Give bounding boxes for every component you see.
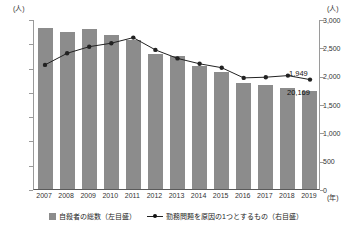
chart-container: (人) (人) 05,00010,00015,00020,00025,00030…	[0, 0, 352, 229]
line-marker-2019	[308, 77, 312, 81]
right-axis-tick-500: 500	[323, 158, 335, 165]
right-axis-tick-1500: 1,500	[323, 102, 341, 109]
x-axis-tick-2008: 2008	[55, 192, 77, 200]
x-axis-tick-2011: 2011	[121, 192, 143, 200]
chart-legend: 自殺者の総数（左目盛） 勤務問題を原因の1つとするもの（右目盛）	[0, 211, 352, 221]
right-axis-tick-2500: 2,500	[323, 45, 341, 52]
line-marker-2008	[65, 51, 69, 55]
line-markers	[43, 35, 312, 81]
x-axis-tick-2012: 2012	[143, 192, 165, 200]
right-axis-tick-3000: 3,000	[323, 17, 341, 24]
legend-item-bar: 自殺者の総数（左目盛）	[49, 211, 136, 221]
x-axis-tick-2018: 2018	[276, 192, 298, 200]
x-axis-tick-2009: 2009	[77, 192, 99, 200]
right-axis-tick-1000: 1,000	[323, 130, 341, 137]
line-marker-2010	[109, 41, 113, 45]
annotation-bar-last-value: 20,169	[287, 89, 310, 97]
x-axis-tick-2015: 2015	[210, 192, 232, 200]
line-marker-2011	[131, 35, 135, 39]
line-marker-icon	[147, 213, 163, 220]
right-axis-tickmark	[320, 190, 324, 191]
x-axis-tick-2013: 2013	[166, 192, 188, 200]
line-marker-2017	[264, 75, 268, 79]
x-axis-tick-2016: 2016	[232, 192, 254, 200]
line-marker-2014	[197, 62, 201, 66]
right-axis-tick-2000: 2,000	[323, 73, 341, 80]
legend-item-line: 勤務問題を原因の1つとするもの（右目盛）	[147, 211, 303, 221]
line-series-layer	[34, 20, 321, 190]
right-axis-unit-label: (人)	[327, 3, 339, 13]
left-axis-unit-label: (人)	[13, 3, 25, 13]
x-axis-tick-2007: 2007	[33, 192, 55, 200]
x-axis-tick-2010: 2010	[99, 192, 121, 200]
line-marker-2016	[242, 76, 246, 80]
line-marker-2015	[220, 66, 224, 70]
bar-swatch-icon	[49, 213, 56, 220]
line-marker-2009	[87, 45, 91, 49]
annotation-line-last-value: 1,949	[289, 70, 308, 78]
line-marker-2012	[153, 48, 157, 52]
x-axis-tick-2014: 2014	[188, 192, 210, 200]
line-marker-2007	[43, 63, 47, 67]
line-marker-2013	[175, 56, 179, 60]
legend-item-line-label: 勤務問題を原因の1つとするもの（右目盛）	[166, 211, 303, 221]
legend-item-bar-label: 自殺者の総数（左目盛）	[59, 211, 136, 221]
x-axis-unit-label: (年)	[327, 192, 339, 202]
plot-area	[33, 20, 320, 190]
x-axis-tick-2019: 2019	[298, 192, 320, 200]
x-axis-tick-2017: 2017	[254, 192, 276, 200]
left-axis-tickmark	[29, 190, 33, 191]
